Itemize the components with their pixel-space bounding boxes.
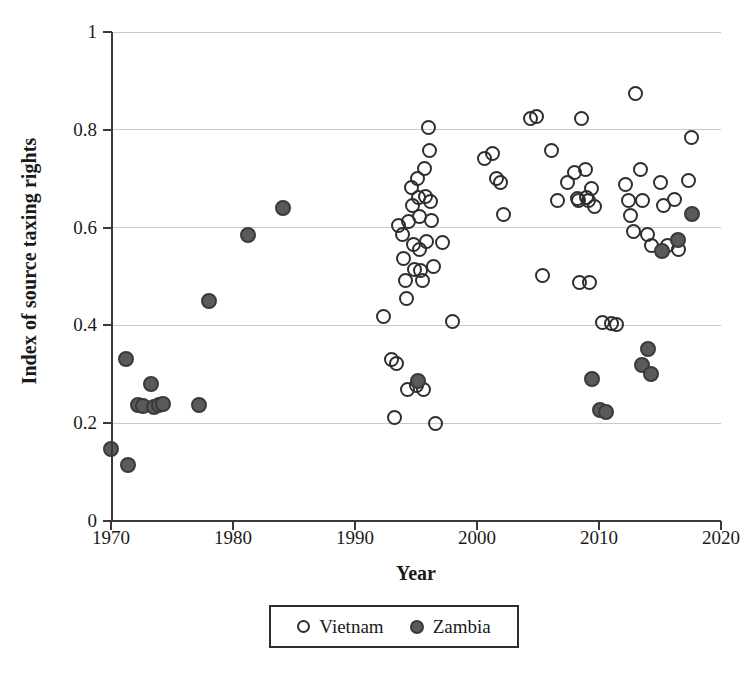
data-point-vietnam bbox=[387, 410, 402, 425]
data-point-vietnam bbox=[633, 162, 648, 177]
data-point-vietnam bbox=[419, 234, 434, 249]
data-point-zambia bbox=[155, 396, 171, 412]
legend-item-vietnam: Vietnam bbox=[297, 616, 383, 638]
data-point-zambia bbox=[643, 366, 659, 382]
data-point-vietnam bbox=[389, 356, 404, 371]
data-point-vietnam bbox=[621, 193, 636, 208]
data-point-zambia bbox=[120, 457, 136, 473]
data-point-vietnam bbox=[578, 162, 593, 177]
data-point-vietnam bbox=[623, 208, 638, 223]
y-axis-title: Index of source taxing rights bbox=[12, 1, 46, 521]
data-point-zambia bbox=[654, 243, 670, 259]
data-point-vietnam bbox=[529, 109, 544, 124]
y-axis-line bbox=[111, 32, 113, 522]
data-point-vietnam bbox=[582, 275, 597, 290]
data-point-zambia bbox=[670, 232, 686, 248]
data-point-vietnam bbox=[485, 146, 500, 161]
data-point-vietnam bbox=[550, 193, 565, 208]
gridline-y bbox=[111, 325, 721, 326]
data-point-vietnam bbox=[496, 207, 511, 222]
data-point-zambia bbox=[191, 397, 207, 413]
filled-circle-icon bbox=[410, 620, 424, 634]
gridline-y bbox=[111, 129, 721, 130]
chart-legend: Vietnam Zambia bbox=[269, 605, 519, 648]
data-point-vietnam bbox=[609, 317, 624, 332]
data-point-vietnam bbox=[681, 173, 696, 188]
data-point-vietnam bbox=[667, 192, 682, 207]
gridline-y bbox=[111, 423, 721, 424]
data-point-vietnam bbox=[635, 193, 650, 208]
legend-label-vietnam: Vietnam bbox=[319, 616, 383, 638]
data-point-vietnam bbox=[422, 143, 437, 158]
data-point-zambia bbox=[240, 227, 256, 243]
data-point-vietnam bbox=[628, 86, 643, 101]
data-point-vietnam bbox=[584, 181, 599, 196]
data-point-vietnam bbox=[435, 235, 450, 250]
x-axis-tick-label: 2010 bbox=[559, 528, 639, 547]
data-point-zambia bbox=[118, 351, 134, 367]
scatter-plot-figure: Index of source taxing rights 00.20.40.6… bbox=[0, 0, 752, 683]
data-point-vietnam bbox=[653, 175, 668, 190]
data-point-vietnam bbox=[445, 314, 460, 329]
data-point-vietnam bbox=[428, 416, 443, 431]
data-point-vietnam bbox=[424, 213, 439, 228]
y-axis-tick-label: 0.4 bbox=[51, 315, 97, 334]
legend-label-zambia: Zambia bbox=[433, 616, 491, 638]
data-point-vietnam bbox=[684, 130, 699, 145]
data-point-zambia bbox=[684, 206, 700, 222]
data-point-zambia bbox=[275, 200, 291, 216]
data-point-vietnam bbox=[618, 177, 633, 192]
legend-item-zambia: Zambia bbox=[410, 616, 491, 638]
data-point-vietnam bbox=[574, 111, 589, 126]
data-point-vietnam bbox=[493, 175, 508, 190]
data-point-zambia bbox=[143, 376, 159, 392]
data-point-vietnam bbox=[535, 268, 550, 283]
x-axis-tick-label: 1990 bbox=[315, 528, 395, 547]
data-point-zambia bbox=[201, 293, 217, 309]
data-point-zambia bbox=[584, 371, 600, 387]
data-point-vietnam bbox=[544, 143, 559, 158]
data-point-zambia bbox=[410, 373, 426, 389]
data-point-vietnam bbox=[423, 194, 438, 209]
y-axis-tick-label: 0.8 bbox=[51, 120, 97, 139]
x-axis-line bbox=[111, 520, 721, 522]
x-axis-tick-label: 1970 bbox=[71, 528, 151, 547]
data-point-vietnam bbox=[415, 273, 430, 288]
data-point-zambia bbox=[598, 404, 614, 420]
x-axis-tick-label: 2000 bbox=[437, 528, 517, 547]
x-axis-title: Year bbox=[111, 562, 721, 585]
data-point-vietnam bbox=[399, 291, 414, 306]
data-point-vietnam bbox=[421, 120, 436, 135]
data-point-vietnam bbox=[587, 199, 602, 214]
y-axis-tick-label: 1 bbox=[51, 22, 97, 41]
x-axis-tick-label: 1980 bbox=[193, 528, 273, 547]
y-axis-tick-label: 0.2 bbox=[51, 413, 97, 432]
data-point-vietnam bbox=[417, 161, 432, 176]
data-point-zambia bbox=[640, 341, 656, 357]
gridline-y bbox=[111, 32, 721, 33]
y-axis-tick-label: 0.6 bbox=[51, 218, 97, 237]
data-point-vietnam bbox=[376, 309, 391, 324]
open-circle-icon bbox=[297, 620, 310, 633]
data-point-vietnam bbox=[626, 224, 641, 239]
x-axis-tick-label: 2020 bbox=[681, 528, 752, 547]
data-point-vietnam bbox=[426, 259, 441, 274]
